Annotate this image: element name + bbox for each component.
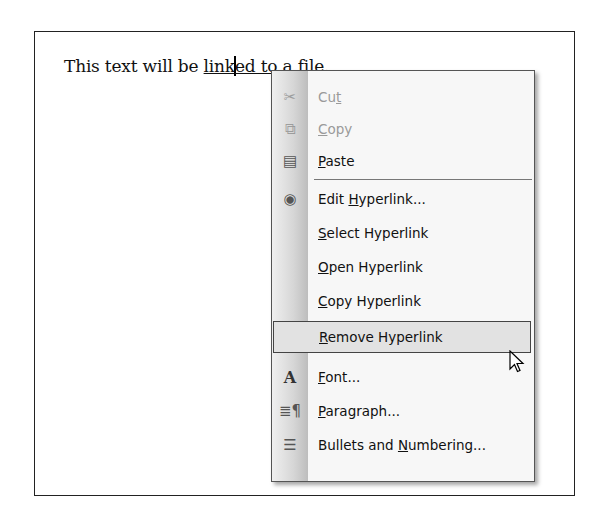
menu-item-copy-hyperlink[interactable]: Copy Hyperlink bbox=[272, 285, 534, 317]
font-icon: A bbox=[272, 368, 308, 387]
hyperlink-globe-icon: ◉ bbox=[272, 190, 308, 208]
menu-item-open-hyperlink[interactable]: Open Hyperlink bbox=[272, 251, 534, 283]
menu-item-bullets-numbering[interactable]: ☰ Bullets and Numbering... bbox=[272, 429, 534, 461]
paste-icon: ▤ bbox=[272, 152, 308, 170]
menu-item-cut[interactable]: ✂ Cut bbox=[272, 81, 534, 113]
menu-separator bbox=[314, 179, 532, 180]
menu-item-paragraph[interactable]: ≣¶ Paragraph... bbox=[272, 395, 534, 427]
menu-item-remove-hyperlink[interactable]: Remove Hyperlink bbox=[273, 321, 531, 353]
text-before: This text will be bbox=[64, 56, 204, 76]
context-menu: ✂ Cut ⧉ Copy ▤ Paste ◉ Edit Hyperlink...… bbox=[271, 70, 535, 482]
scissors-icon: ✂ bbox=[272, 88, 308, 106]
copy-icon: ⧉ bbox=[272, 120, 308, 138]
menu-item-paste[interactable]: ▤ Paste bbox=[272, 145, 534, 177]
paragraph-icon: ≣¶ bbox=[272, 402, 308, 420]
bullets-icon: ☰ bbox=[272, 436, 308, 454]
menu-item-select-hyperlink[interactable]: Select Hyperlink bbox=[272, 217, 534, 249]
menu-item-copy[interactable]: ⧉ Copy bbox=[272, 113, 534, 145]
menu-item-edit-hyperlink[interactable]: ◉ Edit Hyperlink... bbox=[272, 183, 534, 215]
mouse-pointer-icon bbox=[509, 350, 525, 374]
menu-item-font[interactable]: A Font... bbox=[272, 361, 534, 393]
